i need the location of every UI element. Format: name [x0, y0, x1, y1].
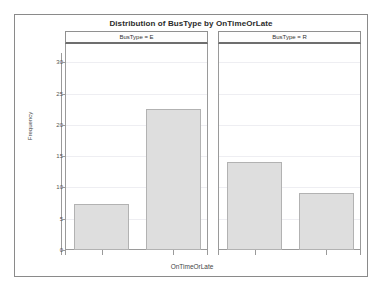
- y-tick-label: 5: [39, 216, 63, 222]
- x-tick-mark: [326, 250, 327, 255]
- chart-panel: BusType = RLO: [218, 31, 361, 259]
- panel-plot-body: LO: [65, 44, 208, 255]
- y-tick-label: 10: [39, 184, 63, 190]
- gridline: [219, 156, 360, 157]
- x-axis-label: OnTimeOrLate: [15, 263, 369, 270]
- x-tick-mark: [173, 250, 174, 255]
- panel-container: BusType = ELOBusType = RLO: [65, 31, 361, 259]
- chart-title: Distribution of BusType by OnTimeOrLate: [15, 19, 367, 28]
- bar[interactable]: [299, 193, 354, 250]
- plot-area: Frequency 051015202530 BusType = ELOBusT…: [39, 31, 361, 249]
- gridline: [66, 62, 207, 63]
- y-tick-label: 30: [39, 59, 63, 65]
- x-tick-mark: [102, 250, 103, 255]
- bar[interactable]: [227, 162, 282, 250]
- x-tick-mark: [255, 250, 256, 255]
- y-tick-label: 20: [39, 122, 63, 128]
- panel-header: BusType = R: [218, 31, 361, 44]
- bar[interactable]: [74, 204, 129, 250]
- gridline: [219, 125, 360, 126]
- y-axis-label: Frequency: [27, 81, 33, 171]
- gridline: [219, 94, 360, 95]
- y-tick-label: 0: [39, 247, 63, 253]
- y-tick-label: 15: [39, 153, 63, 159]
- panel-header-label: BusType = E: [119, 34, 153, 40]
- chart-panel: BusType = ELO: [65, 31, 208, 259]
- bar[interactable]: [146, 109, 201, 250]
- y-tick-label: 25: [39, 91, 63, 97]
- chart-frame: Distribution of BusType by OnTimeOrLate …: [14, 14, 368, 277]
- gridline: [66, 94, 207, 95]
- panel-plot-body: LO: [218, 44, 361, 255]
- panel-header-label: BusType = R: [272, 34, 307, 40]
- panel-header: BusType = E: [65, 31, 208, 44]
- gridline: [219, 62, 360, 63]
